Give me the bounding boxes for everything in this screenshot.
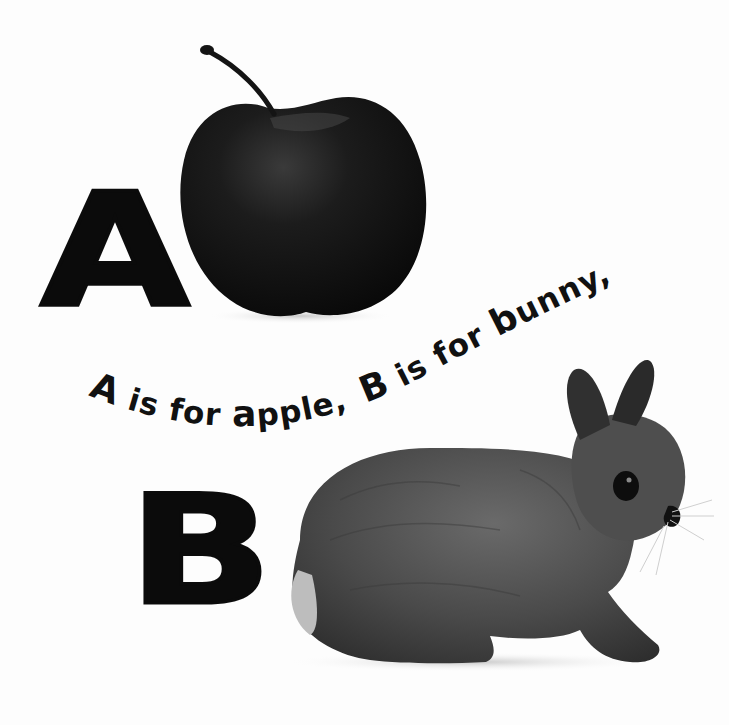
caption-word-initial-a: a xyxy=(232,393,258,434)
caption-word-apple: pple, xyxy=(255,381,351,433)
bunny-eye-highlight xyxy=(627,478,632,483)
illustration-layer: A is for apple,B is for bunny, xyxy=(0,0,729,725)
caption-word-bunny: unny, xyxy=(509,255,616,331)
apple-image xyxy=(180,45,426,324)
caption-is-for-2: is for xyxy=(380,311,501,399)
apple-stem-tip xyxy=(200,45,214,55)
caption-is-for-1: is for xyxy=(113,378,233,434)
bunny-ear-right xyxy=(612,360,654,426)
bunny-eye xyxy=(613,471,639,501)
book-page: A B xyxy=(0,0,729,725)
